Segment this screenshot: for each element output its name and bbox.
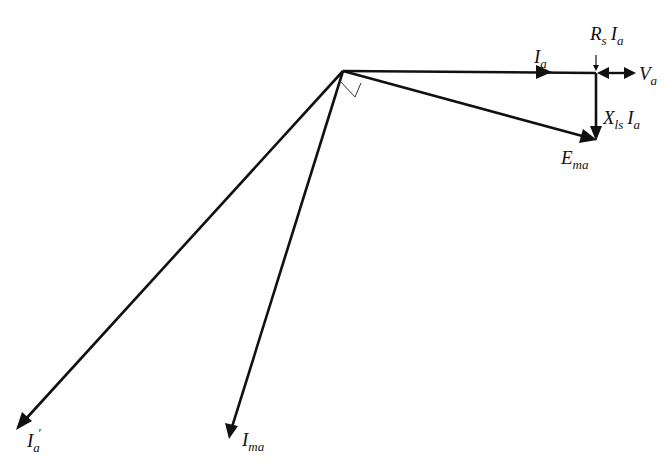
phasor-ima — [225, 71, 343, 439]
arrowhead-icon — [597, 67, 609, 79]
phasor-diagram: Ia RsIa Va XlsIa Ema Ia′ Ima — [0, 0, 665, 462]
arrowhead-icon — [225, 423, 238, 439]
phasor-xls-ia — [590, 73, 602, 141]
rs-ia-pointer — [593, 55, 599, 71]
label-ia-prime: Ia′ — [26, 425, 41, 455]
label-va: Va — [639, 63, 658, 88]
phasor-va — [597, 67, 636, 79]
phasor-ema — [343, 71, 597, 143]
arrowhead-icon — [593, 65, 599, 71]
label-ia: Ia — [533, 46, 547, 71]
label-rs-ia: RsIa — [589, 23, 624, 48]
label-xls-ia: XlsIa — [602, 107, 641, 132]
phasor-ia-prime — [16, 71, 343, 430]
label-ima: Ima — [241, 429, 265, 454]
right-angle-marker — [340, 81, 361, 97]
phasor-ia — [343, 65, 596, 79]
arrowhead-icon — [624, 67, 636, 79]
label-ema: Ema — [560, 147, 589, 172]
